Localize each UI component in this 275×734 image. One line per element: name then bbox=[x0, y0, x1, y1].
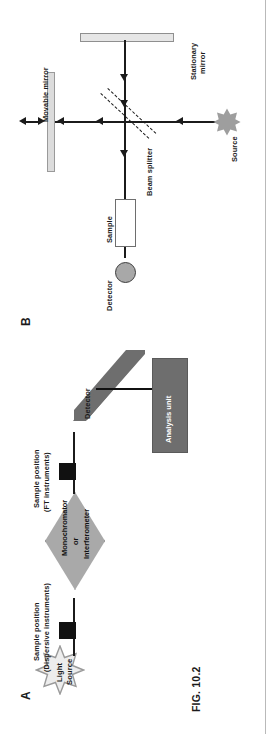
label-monochromator-line2: or bbox=[71, 538, 80, 545]
label-analysis-unit: Analysis unit bbox=[164, 396, 173, 443]
arrowhead-toward-splitter-left bbox=[96, 117, 103, 125]
label-detector-a: Detector bbox=[84, 388, 93, 419]
connector-detector-to-analysis-unit bbox=[96, 388, 152, 390]
sample-cell-b bbox=[115, 199, 136, 247]
movable-mirror-travel-arrow-left bbox=[19, 117, 26, 125]
sample-position-ft-square bbox=[59, 463, 76, 480]
label-light-source-line2: Source bbox=[66, 659, 75, 685]
source-star-icon bbox=[213, 108, 241, 136]
arrowhead-movable-left bbox=[57, 117, 64, 125]
label-sample-pos-ft-line1: Sample position bbox=[33, 449, 42, 508]
panel-letter-a: A bbox=[22, 691, 31, 700]
label-sample-pos-dispersive-line1: Sample position bbox=[33, 602, 42, 661]
label-sample-b: Sample bbox=[106, 216, 115, 243]
label-monochromator-line3: Interferometer bbox=[82, 509, 91, 559]
label-source: Source bbox=[231, 136, 240, 162]
label-stationary-mirror-line2: mirror bbox=[199, 52, 208, 74]
label-monochromator-line1: Monochromator bbox=[60, 500, 69, 556]
beam-stationary-arm bbox=[124, 40, 126, 122]
label-sample-pos-dispersive-line2: (Dispersive instruments) bbox=[43, 583, 52, 672]
detector-circle-b bbox=[115, 262, 136, 283]
figure-caption: FIG. 10.2 bbox=[192, 666, 201, 712]
arrowhead-from-source-left bbox=[176, 117, 183, 125]
label-beam-splitter: Beam splitter bbox=[146, 148, 155, 196]
label-detector-b: Detector bbox=[106, 280, 115, 311]
arrowhead-detector-down bbox=[120, 150, 128, 157]
beam-horizontal-arm bbox=[55, 121, 218, 123]
page-edge-rule bbox=[265, 0, 266, 734]
beam-splitter-line-2 bbox=[107, 88, 156, 134]
arrowhead-stationary-down-1 bbox=[120, 74, 128, 81]
detector-block-a bbox=[56, 350, 146, 436]
label-movable-mirror: Movable mirror bbox=[42, 67, 51, 122]
sample-position-dispersive-square bbox=[59, 622, 76, 639]
label-sample-pos-ft-line2: (FT instruments) bbox=[43, 452, 52, 512]
panel-letter-b: B bbox=[22, 317, 31, 326]
figure-page: B Movable mirror Stationary mirror Beam … bbox=[0, 0, 275, 734]
label-light-source-line1: Light bbox=[56, 663, 65, 682]
stationary-mirror bbox=[80, 33, 174, 42]
